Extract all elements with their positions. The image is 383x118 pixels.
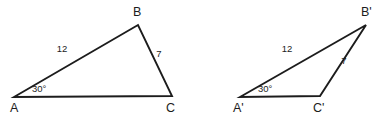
vertex-label-c-prime: C' bbox=[313, 101, 324, 115]
vertex-label-b-prime: B' bbox=[361, 5, 372, 19]
side-label-ab: 12 bbox=[57, 43, 68, 54]
triangle-abc: A B C 12 7 30° bbox=[10, 5, 175, 115]
vertex-label-a: A bbox=[10, 101, 19, 115]
vertex-label-a-prime: A' bbox=[233, 101, 244, 115]
triangles-diagram: A B C 12 7 30° A' B' C' 12 7 30° bbox=[0, 0, 383, 118]
angle-label-a: 30° bbox=[32, 83, 47, 94]
side-label-bc-prime: 7 bbox=[341, 55, 346, 66]
geometry-figure: A B C 12 7 30° A' B' C' 12 7 30° bbox=[0, 0, 383, 118]
side-label-bc: 7 bbox=[156, 48, 161, 59]
angle-label-a-prime: 30° bbox=[258, 83, 273, 94]
side-label-ab-prime: 12 bbox=[282, 43, 293, 54]
vertex-label-c: C bbox=[166, 101, 175, 115]
triangle-abc-prime: A' B' C' 12 7 30° bbox=[233, 5, 372, 115]
vertex-label-b: B bbox=[133, 5, 141, 19]
